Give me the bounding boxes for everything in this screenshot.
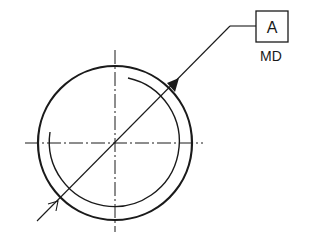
technical-drawing: A MD [0,0,313,244]
diagonal-leader-line [37,26,230,221]
datum-triangle-icon [167,78,179,92]
arrowhead-icon [48,201,58,211]
datum-note: MD [260,48,282,64]
datum-letter: A [267,19,278,36]
